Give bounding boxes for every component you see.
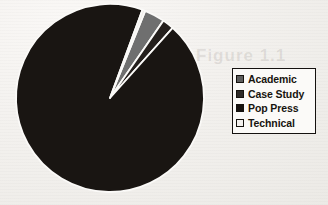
legend-swatch-technical <box>236 119 244 127</box>
pie-slice-group <box>16 4 204 192</box>
legend-label: Pop Press <box>248 102 298 114</box>
legend-item[interactable]: Pop Press <box>236 101 311 115</box>
legend-swatch-pop-press <box>236 104 244 112</box>
legend-label: Technical <box>248 117 295 129</box>
chart-legend: Academic Case Study Pop Press Technical <box>232 68 316 134</box>
legend-swatch-case-study <box>236 90 244 98</box>
legend-item[interactable]: Technical <box>236 116 311 130</box>
legend-item[interactable]: Case Study <box>236 87 311 101</box>
legend-label: Case Study <box>248 88 304 100</box>
legend-item[interactable]: Academic <box>236 72 311 86</box>
legend-swatch-academic <box>236 75 244 83</box>
legend-label: Academic <box>248 73 297 85</box>
